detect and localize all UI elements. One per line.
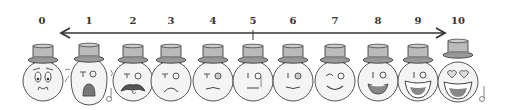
face-1-crying-icon bbox=[71, 43, 113, 105]
face-9-big-grin-icon bbox=[398, 44, 438, 101]
faces-illustration bbox=[0, 0, 510, 110]
face-4-slightly-sad-icon bbox=[193, 44, 233, 101]
face-5-neutral-icon bbox=[233, 44, 273, 101]
face-3-frowning-icon bbox=[151, 44, 191, 101]
face-0-worried-icon bbox=[23, 44, 70, 101]
face-10-heart-eyes-icon bbox=[438, 39, 485, 102]
emotion-scale-diagram: 0 1 2 3 4 5 6 7 8 9 10 bbox=[0, 0, 510, 110]
face-6-slight-smile-icon bbox=[273, 44, 313, 101]
face-7-winking-icon bbox=[315, 44, 355, 101]
scale-arrow bbox=[61, 28, 445, 40]
face-2-angry-icon bbox=[113, 44, 153, 101]
face-8-grin-icon bbox=[358, 44, 398, 101]
